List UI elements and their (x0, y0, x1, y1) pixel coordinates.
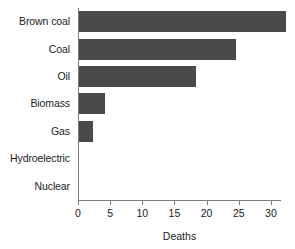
y-axis-tick-label: Brown coal (19, 16, 74, 27)
y-axis-label-row: Coal (0, 35, 74, 62)
x-axis-tick-mark (78, 200, 79, 205)
x-axis-tick-mark (142, 200, 143, 205)
y-axis-label-row: Biomass (0, 90, 74, 117)
bar-row (78, 63, 287, 90)
x-axis-tick-mark (271, 200, 272, 205)
bar (78, 66, 196, 87)
x-axis-tick-mark (110, 200, 111, 205)
bar (78, 11, 286, 32)
bar-series (78, 8, 287, 200)
x-axis-tick-label: 10 (136, 207, 148, 219)
y-axis-category-labels: Brown coal Coal Oil Biomass Gas Hydroele… (0, 8, 74, 200)
x-axis-tick-mark (207, 200, 208, 205)
bar (78, 121, 93, 142)
bar-row (78, 118, 287, 145)
bar-row (78, 90, 287, 117)
y-axis-label-row: Hydroelectric (0, 145, 74, 172)
x-axis-title: Deaths (78, 230, 281, 242)
y-axis-tick-label: Oil (57, 71, 74, 82)
x-axis-tick-label: 15 (169, 207, 181, 219)
plot-area (78, 8, 287, 200)
y-axis-label-row: Brown coal (0, 8, 74, 35)
x-axis-tick-mark (174, 200, 175, 205)
y-axis-tick-label: Hydroelectric (10, 153, 74, 164)
bar-row (78, 8, 287, 35)
bar (78, 39, 236, 60)
y-axis-tick-label: Biomass (30, 98, 74, 109)
x-axis-tick-mark (239, 200, 240, 205)
x-axis-tick-label: 25 (233, 207, 245, 219)
bar (78, 93, 105, 114)
y-axis-tick-label: Coal (49, 44, 74, 55)
bar-chart: Brown coal Coal Oil Biomass Gas Hydroele… (0, 0, 295, 249)
y-axis-label-row: Gas (0, 118, 74, 145)
x-axis-ticks: 051015202530 (0, 200, 295, 224)
y-axis-label-row: Nuclear (0, 173, 74, 200)
y-axis-tick-label: Gas (51, 126, 74, 137)
x-axis-tick-label: 20 (201, 207, 213, 219)
x-axis-tick-label: 30 (265, 207, 277, 219)
y-axis-tick-label: Nuclear (35, 181, 74, 192)
y-axis-line (78, 8, 79, 200)
bar-row (78, 145, 287, 172)
bar-row (78, 173, 287, 200)
x-axis-tick-label: 5 (107, 207, 113, 219)
bar-row (78, 35, 287, 62)
x-axis-tick-label: 0 (75, 207, 81, 219)
y-axis-label-row: Oil (0, 63, 74, 90)
